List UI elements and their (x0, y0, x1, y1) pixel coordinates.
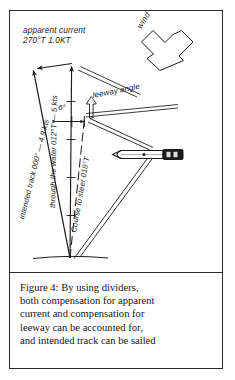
caption-line: current and compensation for (20, 307, 216, 320)
caption-line: leeway can be accounted for, (20, 321, 216, 334)
caption-line: both compensation for apparent (20, 294, 216, 307)
apparent-current-name: apparent current (23, 25, 85, 35)
caption-line: Figure 4: By using dividers, (20, 281, 216, 294)
apparent-current-label: apparent current 270°T 1.0KT (23, 26, 85, 45)
caption-divider (10, 272, 222, 273)
apparent-current-value: 270°T 1.0KT (23, 36, 85, 45)
figure-caption: Figure 4: By using dividers, both compen… (20, 281, 216, 347)
caption-line: and intended track can be sailed (20, 334, 216, 347)
figure-page: apparent current 270°T 1.0KT wind leeway… (0, 0, 235, 380)
leeway-angle-value: 6° (58, 104, 66, 112)
